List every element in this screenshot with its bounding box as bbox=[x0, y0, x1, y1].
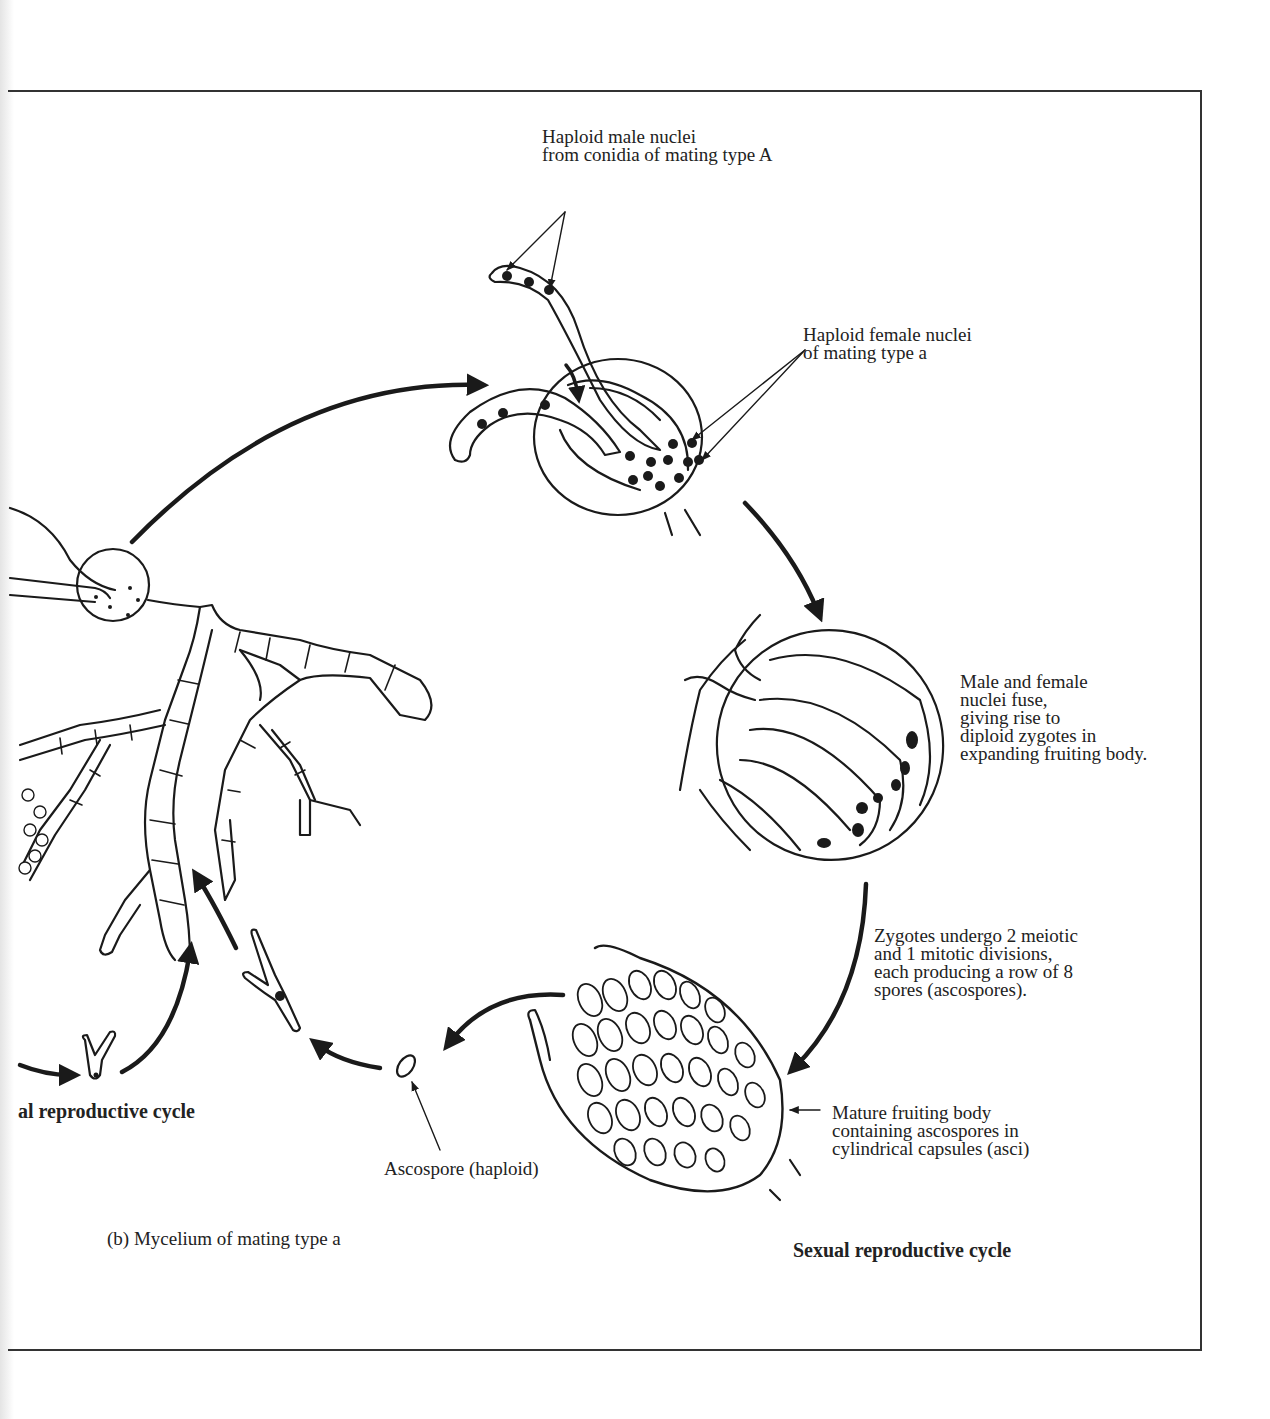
arrow-mycelium-to-fertilization bbox=[132, 385, 478, 542]
ascospores bbox=[568, 967, 769, 1175]
arrow-into-left-germling bbox=[20, 1065, 70, 1075]
ascospore-shape bbox=[393, 1052, 418, 1080]
septa bbox=[60, 632, 395, 905]
pointer-lines bbox=[507, 212, 805, 460]
mycelium bbox=[10, 508, 431, 960]
arrow-to-mature-body bbox=[795, 884, 866, 1067]
label-male-nuclei: Haploid male nuclei from conidia of mati… bbox=[542, 128, 773, 164]
trichogyne-remnant bbox=[680, 615, 760, 790]
panel-caption: (b) Mycelium of mating type a bbox=[107, 1230, 341, 1248]
protoperithecium bbox=[77, 549, 149, 621]
arrow-left-germling-up bbox=[122, 952, 190, 1072]
mature-fruiting-body bbox=[528, 946, 820, 1200]
label-female-nuclei: Haploid female nuclei of mating type a bbox=[803, 326, 972, 362]
germinating-ascospore bbox=[243, 930, 300, 1032]
male-hypha bbox=[490, 266, 660, 450]
arrow-to-expanding-body bbox=[745, 503, 818, 612]
label-meiosis: Zygotes undergo 2 meiotic and 1 mitotic … bbox=[874, 927, 1078, 999]
arrow-ascospore-to-germling bbox=[318, 1045, 380, 1068]
fertilization-stage bbox=[450, 212, 805, 535]
label-ascospore: Ascospore (haploid) bbox=[384, 1160, 539, 1178]
label-asexual-cycle: al reproductive cycle bbox=[18, 1102, 195, 1120]
label-mature-fruiting-body: Mature fruiting body containing ascospor… bbox=[832, 1104, 1029, 1158]
female-ascogonium bbox=[534, 359, 702, 515]
germinating-conidium bbox=[83, 1032, 115, 1079]
arrow-to-ascospore bbox=[450, 995, 563, 1042]
label-sexual-cycle: Sexual reproductive cycle bbox=[793, 1241, 1011, 1259]
label-nuclear-fusion: Male and female nuclei fuse, giving rise… bbox=[960, 673, 1147, 763]
expanding-fruiting-body bbox=[680, 605, 969, 886]
